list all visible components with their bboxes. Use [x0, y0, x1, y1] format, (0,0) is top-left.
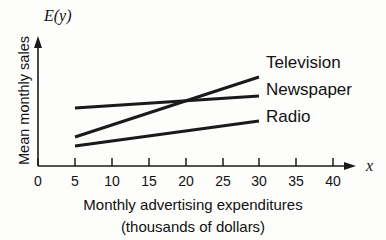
x-axis: [38, 162, 356, 170]
x-tick-label-35: 35: [288, 174, 304, 188]
x-axis-title-line1: Monthly advertising expenditures: [83, 197, 302, 212]
x-axis-ticks: [38, 158, 333, 166]
x-axis-title-line2: (thousands of dollars): [121, 219, 265, 234]
series-label-television: Television: [266, 54, 341, 71]
series-label-newspaper: Newspaper: [266, 81, 352, 98]
x-tick-label-15: 15: [141, 174, 157, 188]
x-tick-label-30: 30: [251, 174, 267, 188]
x-tick-label-25: 25: [215, 174, 231, 188]
x-tick-label-20: 20: [178, 174, 194, 188]
chart-figure: E(y) x Mean monthly sales 0 5 10 15 20 2…: [0, 0, 386, 240]
x-tick-label-40: 40: [325, 174, 341, 188]
series-lines: [75, 77, 259, 146]
x-axis-variable-label: x: [366, 158, 373, 174]
y-axis-title: Mean monthly sales: [17, 36, 32, 165]
series-label-radio: Radio: [266, 108, 310, 125]
x-tick-label-0: 0: [34, 174, 42, 188]
x-tick-label-5: 5: [71, 174, 79, 188]
x-tick-label-10: 10: [104, 174, 120, 188]
series-line-radio: [75, 121, 259, 146]
y-axis: [34, 36, 42, 166]
y-axis-variable-label: E(y): [44, 8, 72, 24]
